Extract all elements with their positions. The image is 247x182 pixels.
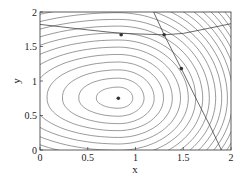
y-tick-label: 0 [32,145,37,156]
y-tick-label: 1 [32,76,37,87]
plot-frame [40,12,231,150]
x-axis-label: x [132,163,138,175]
contour-chart: 00.511.52 00.511.52 x y [0,0,247,182]
y-tick-label: 1.5 [25,41,38,52]
y-tick-label: 2 [32,7,37,18]
constraint-curve [40,24,231,35]
contour-line [96,87,132,108]
contour-line [32,55,172,138]
data-point-marker [117,96,121,100]
x-axis-ticks: 00.511.52 [38,147,234,163]
x-tick-label: 2 [229,152,234,163]
constraint-curves [40,12,231,150]
data-points [117,33,184,100]
y-axis-label: y [10,78,22,84]
x-tick-label: 1.5 [177,152,190,163]
data-point-marker [119,33,123,37]
x-tick-label: 0.5 [82,152,95,163]
contour-line [79,78,144,116]
data-point-marker [180,67,184,71]
data-point-marker [162,33,166,37]
x-tick-label: 0 [38,152,43,163]
y-tick-label: 0.5 [25,110,38,121]
x-tick-label: 1 [133,152,138,163]
contour-line [47,62,163,131]
contour-line [4,40,189,150]
